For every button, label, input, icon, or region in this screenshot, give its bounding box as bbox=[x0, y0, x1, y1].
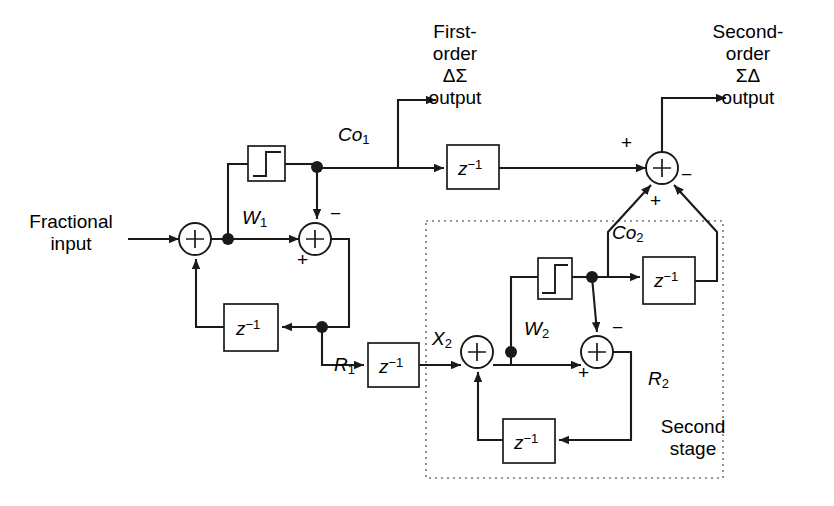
delay-r1-label: z−1 bbox=[379, 352, 403, 378]
label-r1: R1 bbox=[334, 354, 355, 381]
wire-delay1-to-summer1 bbox=[196, 259, 224, 327]
summer-2-sign-plus: + bbox=[297, 250, 308, 269]
label-co2: Co2 bbox=[612, 222, 644, 249]
node-w2-dot bbox=[505, 346, 517, 358]
node-r1-dot bbox=[316, 321, 328, 333]
label-fractional-input: Fractional input bbox=[16, 211, 126, 255]
delay-co1-label: z−1 bbox=[458, 154, 482, 180]
block-diagram: Fractional input First- order ΔΣ output … bbox=[0, 0, 834, 506]
node-w1-dot bbox=[222, 233, 234, 245]
label-w2: W2 bbox=[524, 318, 549, 345]
label-w1: W1 bbox=[242, 207, 267, 234]
summer-5-sign-plus: + bbox=[578, 363, 589, 382]
node-co1-dot bbox=[311, 161, 323, 173]
delay-feedback-1-label: z−1 bbox=[236, 314, 260, 340]
summer-5-sign-minus: − bbox=[612, 318, 623, 337]
delay-co2-label: z−1 bbox=[654, 266, 678, 292]
delay-feedback-2-label: z−1 bbox=[514, 428, 538, 454]
wire-delay2-to-summer4 bbox=[478, 372, 503, 440]
label-x2: X2 bbox=[432, 328, 452, 355]
summer-3-sign-minus-right: − bbox=[681, 165, 692, 184]
summer-2-sign-minus: − bbox=[330, 204, 341, 223]
label-second-order-output: Second- order ΣΔ output bbox=[688, 21, 808, 109]
summer-3-sign-plus-bottom: + bbox=[650, 191, 661, 210]
label-second-stage: Second stage bbox=[643, 416, 743, 460]
label-co1: Co1 bbox=[338, 124, 370, 151]
label-r2: R2 bbox=[648, 368, 669, 395]
label-first-order-output: First- order ΔΣ output bbox=[400, 21, 510, 109]
wire-co2-to-summer5 bbox=[592, 277, 597, 332]
wire-first-order-output bbox=[398, 100, 436, 168]
summer-3-sign-plus-left: + bbox=[621, 133, 632, 152]
node-co2-dot bbox=[586, 271, 598, 283]
wire-summer2-to-r1node bbox=[326, 239, 349, 327]
